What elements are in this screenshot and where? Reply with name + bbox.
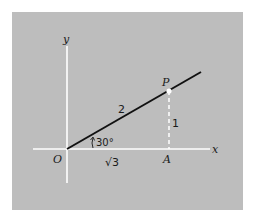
adjacent-length-label: √3 — [105, 156, 119, 169]
diagram-background — [12, 12, 243, 210]
point-p-label: P — [161, 76, 170, 89]
y-axis-label: y — [62, 33, 70, 46]
point-a-label: A — [162, 153, 171, 166]
angle-label: 30° — [96, 137, 114, 148]
x-axis-label: x — [212, 143, 219, 156]
origin-label: O — [53, 153, 62, 166]
hypotenuse-length-label: 2 — [118, 103, 125, 116]
opposite-length-label: 1 — [172, 117, 179, 130]
point-p-marker — [166, 88, 171, 93]
unit-triangle-diagram: y x O P A 2 1 √3 30° — [0, 0, 255, 220]
